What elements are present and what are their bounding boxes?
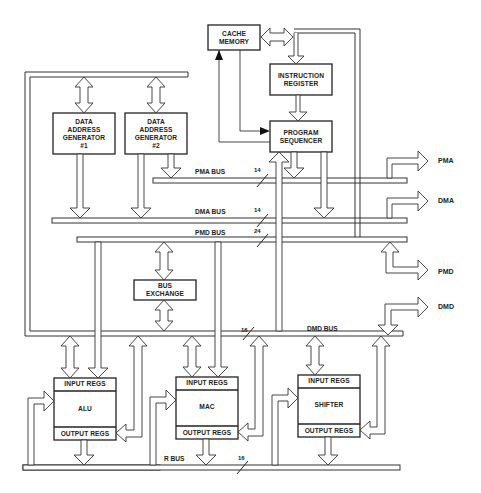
- pma-bus-label: PMA BUS: [195, 168, 225, 175]
- pma-bus-width: 14: [254, 167, 261, 173]
- pmd-bus-label: PMD BUS: [195, 229, 225, 236]
- bus-exchange-line1: BUS: [158, 282, 172, 290]
- bus-exchange-label: BUS EXCHANGE: [134, 280, 196, 300]
- instruction-register-label: INSTRUCTION REGISTER: [270, 64, 332, 95]
- external-dma-label: DMA: [438, 197, 454, 204]
- mac-input-regs: INPUT REGS: [176, 379, 238, 387]
- instruction-register-line2: REGISTER: [284, 80, 319, 88]
- dag1-line4: #1: [80, 142, 88, 150]
- pmd-bus-width: 24: [254, 228, 261, 234]
- dma-bus-label: DMA BUS: [195, 208, 226, 215]
- dag1-line1: DATA: [75, 118, 93, 126]
- diagram-graphics: [0, 0, 481, 493]
- dmd-bus-label: DMD BUS: [307, 325, 338, 332]
- dag2-label: DATA ADDRESS GENERATOR #2: [125, 113, 187, 154]
- dag2-line3: GENERATOR: [135, 134, 177, 142]
- program-sequencer-line1: PROGRAM: [283, 129, 318, 137]
- mac-output-regs: OUTPUT REGS: [176, 429, 238, 437]
- dag1-label: DATA ADDRESS GENERATOR #1: [53, 113, 115, 154]
- processor-block-diagram: CACHE MEMORY INSTRUCTION REGISTER PROGRA…: [0, 0, 481, 493]
- external-pma-label: PMA: [438, 157, 454, 164]
- dag2-line4: #2: [152, 142, 160, 150]
- external-pmd-label: PMD: [438, 268, 454, 275]
- program-sequencer-label: PROGRAM SEQUENCER: [270, 121, 332, 152]
- cache-memory-line1: CACHE: [222, 30, 246, 38]
- alu-input-regs: INPUT REGS: [54, 380, 116, 388]
- dma-bus-width: 14: [254, 207, 261, 213]
- r-bus-width: 16: [238, 455, 245, 461]
- alu-name: ALU: [54, 405, 116, 413]
- dag2-line2: ADDRESS: [140, 126, 173, 134]
- dmd-bus-width: 16: [241, 327, 248, 333]
- dag2-line1: DATA: [147, 118, 165, 126]
- shifter-output-regs: OUTPUT REGS: [298, 427, 360, 435]
- mac-name: MAC: [176, 403, 238, 411]
- bus-exchange-line2: EXCHANGE: [146, 290, 184, 298]
- arrow-to-cache: [215, 50, 223, 60]
- dag1-line3: GENERATOR: [63, 134, 105, 142]
- arrow-to-sequencer: [260, 127, 270, 135]
- cache-memory-label: CACHE MEMORY: [208, 25, 260, 50]
- dag1-line2: ADDRESS: [68, 126, 101, 134]
- instruction-register-line1: INSTRUCTION: [278, 72, 324, 80]
- program-sequencer-line2: SEQUENCER: [280, 137, 323, 145]
- external-dmd-label: DMD: [438, 303, 454, 310]
- alu-output-regs: OUTPUT REGS: [54, 430, 116, 438]
- cache-memory-line2: MEMORY: [219, 38, 249, 46]
- shifter-input-regs: INPUT REGS: [298, 377, 360, 385]
- dma-bus: [52, 218, 407, 223]
- shifter-name: SHIFTER: [298, 401, 360, 409]
- pmd-bus: [77, 237, 407, 242]
- r-bus-label: R BUS: [164, 455, 185, 462]
